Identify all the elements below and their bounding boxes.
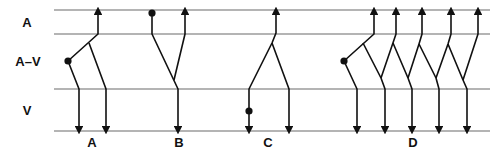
panel-label-b: B: [174, 135, 183, 150]
row-label-atrium: A: [22, 15, 32, 30]
ladder-diagram: A A–V V: [0, 0, 500, 156]
echo-arrow: [174, 11, 185, 80]
panel-b: [148, 9, 185, 130]
echo-arrow-2-down: [393, 43, 412, 130]
retrograde-arrow: [344, 11, 374, 61]
echo-arrow: [89, 43, 106, 130]
echo-arrow-4-down: [448, 44, 467, 130]
echo-arrow-3-down: [419, 44, 439, 130]
retrograde-arrow: [249, 11, 276, 111]
echo-arrow-4-up: [463, 11, 478, 80]
row-label-ventricle: V: [23, 103, 32, 118]
antegrade-arrow: [68, 61, 79, 130]
row-label-av-junction: A–V: [15, 54, 41, 69]
echo-arrow-1-down: [363, 43, 385, 130]
antegrade-arrow: [152, 13, 178, 130]
panel-a: [64, 11, 106, 130]
echo-arrow: [272, 43, 289, 130]
panel-label-a: A: [87, 135, 97, 150]
panel-label-d: D: [408, 135, 417, 150]
antegrade-arrow: [344, 61, 357, 130]
panel-c: [245, 11, 289, 130]
panel-label-c: C: [263, 135, 273, 150]
panel-d: [340, 11, 478, 130]
tier-rails: [54, 10, 490, 131]
